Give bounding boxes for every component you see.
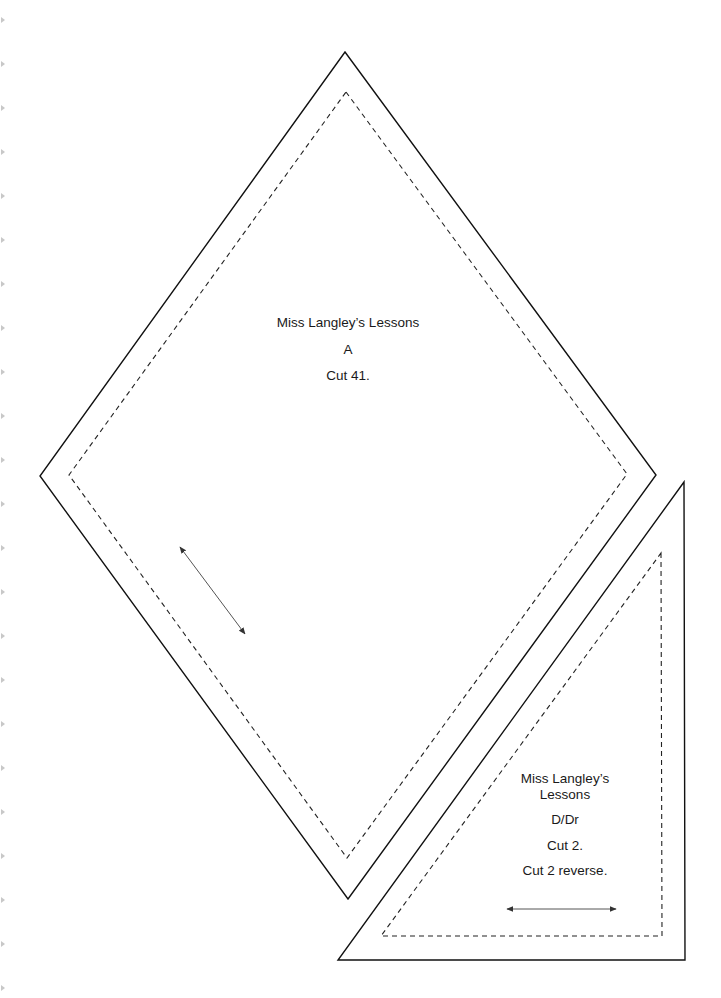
piece-a-label: Miss Langley’s Lessons A Cut 41. <box>238 315 458 395</box>
piece-d-cut-reverse-instruction: Cut 2 reverse. <box>500 863 630 879</box>
piece-d-label: Miss Langley’s Lessons D/Dr Cut 2. Cut 2… <box>500 771 630 889</box>
piece-d-title: Miss Langley’s Lessons <box>500 771 630 802</box>
piece-a-seam-line <box>69 92 627 858</box>
piece-a-cut-instruction: Cut 41. <box>238 368 458 384</box>
piece-a-title: Miss Langley’s Lessons <box>238 315 458 331</box>
piece-a-id: A <box>238 342 458 358</box>
grainline-arrow-icon <box>180 547 245 634</box>
piece-d-cut-instruction: Cut 2. <box>500 838 630 854</box>
piece-d-id: D/Dr <box>500 812 630 828</box>
